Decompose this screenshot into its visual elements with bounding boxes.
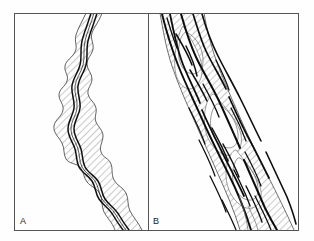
figure-root: A B (0, 0, 314, 241)
panel-a-label: A (20, 216, 26, 226)
panel-b-label: B (153, 216, 159, 226)
river-pattern-figure: A B (0, 0, 314, 241)
